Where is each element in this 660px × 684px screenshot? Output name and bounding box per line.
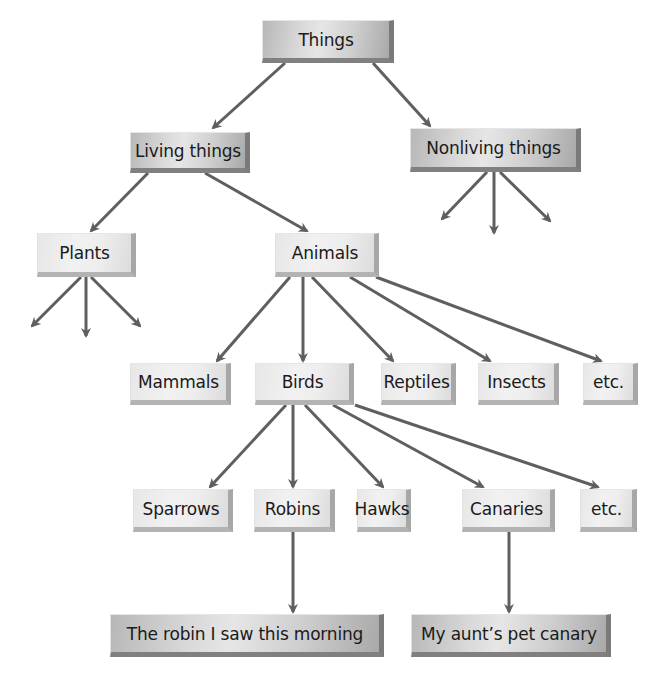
hierarchy-diagram: Things Living things Nonliving things Pl…	[0, 0, 660, 684]
arrow-birds-to-canaries	[333, 405, 483, 487]
node-label: Plants	[59, 243, 110, 263]
node-label: Hawks	[355, 499, 410, 519]
node-label: Animals	[292, 243, 358, 263]
node-robins[interactable]: Robins	[254, 489, 335, 532]
node-reptiles[interactable]: Reptiles	[381, 363, 456, 405]
node-label: Robins	[265, 499, 320, 519]
node-plants[interactable]: Plants	[37, 233, 136, 277]
arrow-animals-to-etc_animals	[376, 277, 601, 361]
arrow-things-to-nonliving_things	[373, 63, 430, 126]
arrow-plants-to-unlabeled	[91, 277, 140, 326]
node-label: Sparrows	[143, 499, 220, 519]
node-hawks[interactable]: Hawks	[357, 489, 411, 532]
node-animals[interactable]: Animals	[275, 233, 379, 277]
arrow-birds-to-hawks	[305, 405, 383, 487]
node-label: Nonliving things	[426, 138, 560, 158]
node-label: Birds	[282, 372, 324, 392]
node-label: Reptiles	[383, 372, 449, 392]
node-mammals[interactable]: Mammals	[130, 363, 231, 405]
arrow-animals-to-mammals	[217, 277, 290, 361]
node-etc-animals[interactable]: etc.	[583, 363, 638, 405]
node-label: My aunt’s pet canary	[421, 624, 597, 644]
node-birds[interactable]: Birds	[255, 363, 354, 405]
node-living-things[interactable]: Living things	[130, 132, 250, 173]
arrow-animals-to-insects	[350, 277, 490, 361]
node-label: Living things	[135, 141, 241, 161]
arrow-animals-to-reptiles	[312, 277, 393, 361]
node-label: The robin I saw this morning	[127, 624, 363, 644]
node-label: Canaries	[470, 499, 543, 519]
arrow-birds-to-etc_birds	[355, 405, 598, 487]
node-nonliving-things[interactable]: Nonliving things	[410, 128, 581, 172]
node-insects[interactable]: Insects	[478, 363, 559, 405]
arrows-layer	[0, 0, 660, 684]
node-robin-this-morning[interactable]: The robin I saw this morning	[110, 614, 384, 657]
node-canaries[interactable]: Canaries	[462, 489, 555, 532]
node-label: Insects	[487, 372, 546, 392]
node-label: Things	[298, 30, 353, 50]
arrow-nonliving_things-to-unlabeled	[442, 172, 487, 219]
node-label: etc.	[593, 372, 624, 392]
node-sparrows[interactable]: Sparrows	[133, 489, 233, 532]
node-aunts-pet-canary[interactable]: My aunt’s pet canary	[411, 614, 611, 657]
arrow-living_things-to-animals	[205, 173, 307, 231]
node-things[interactable]: Things	[262, 20, 394, 63]
arrow-things-to-living_things	[213, 63, 285, 128]
node-etc-birds[interactable]: etc.	[580, 489, 637, 532]
arrow-living_things-to-plants	[91, 173, 148, 231]
node-label: Mammals	[138, 372, 219, 392]
arrow-birds-to-sparrows	[210, 405, 286, 487]
arrow-nonliving_things-to-unlabeled	[500, 172, 550, 221]
node-label: etc.	[591, 499, 622, 519]
arrow-plants-to-unlabeled	[32, 277, 81, 326]
